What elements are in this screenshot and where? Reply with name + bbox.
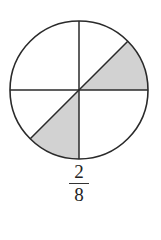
shaded-sector [79, 41, 148, 90]
fraction-label: 2 8 [66, 162, 92, 204]
denominator: 8 [66, 185, 92, 204]
shaded-sectors [30, 41, 148, 159]
numerator: 2 [66, 162, 92, 181]
shaded-sector [30, 90, 79, 159]
